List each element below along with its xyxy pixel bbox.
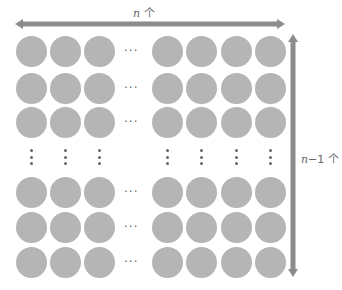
row-count-suffix: −1 个 xyxy=(308,153,339,166)
vertical-ellipsis xyxy=(235,149,238,169)
circle xyxy=(50,73,81,104)
vertical-ellipsis xyxy=(98,149,101,169)
circle xyxy=(152,212,183,243)
column-count-label: n 个 xyxy=(133,4,155,20)
circle xyxy=(255,177,286,208)
circle xyxy=(16,73,47,104)
circle xyxy=(16,107,47,138)
circle xyxy=(221,177,252,208)
vertical-ellipsis xyxy=(269,149,272,169)
horizontal-ellipsis: ··· xyxy=(124,222,138,232)
circle xyxy=(186,36,217,67)
horizontal-ellipsis: ··· xyxy=(124,257,138,267)
circle xyxy=(16,36,47,67)
horizontal-ellipsis: ··· xyxy=(124,83,138,93)
circle xyxy=(255,73,286,104)
circle xyxy=(16,247,47,278)
circle-grid-diagram: n 个 n−1 个 ·················· xyxy=(0,0,342,290)
horizontal-ellipsis: ··· xyxy=(124,187,138,197)
vertical-ellipsis xyxy=(200,149,203,169)
circle xyxy=(50,212,81,243)
horizontal-ellipsis: ··· xyxy=(124,46,138,56)
column-count-suffix: 个 xyxy=(140,7,155,20)
circle xyxy=(186,247,217,278)
circle xyxy=(255,212,286,243)
circle xyxy=(186,177,217,208)
circle xyxy=(255,107,286,138)
circle xyxy=(152,107,183,138)
circle xyxy=(152,36,183,67)
circle xyxy=(50,36,81,67)
circle xyxy=(84,36,115,67)
circle xyxy=(84,247,115,278)
circle xyxy=(50,107,81,138)
circle xyxy=(221,107,252,138)
circle xyxy=(84,177,115,208)
circle xyxy=(84,73,115,104)
circle xyxy=(221,73,252,104)
circle xyxy=(221,247,252,278)
circle xyxy=(16,177,47,208)
circle xyxy=(221,212,252,243)
horizontal-ellipsis: ··· xyxy=(124,117,138,127)
vertical-ellipsis xyxy=(64,149,67,169)
circle xyxy=(186,107,217,138)
circle xyxy=(50,177,81,208)
circle xyxy=(255,36,286,67)
circle xyxy=(50,247,81,278)
horizontal-double-arrow-icon xyxy=(15,19,285,29)
circle xyxy=(152,247,183,278)
circle xyxy=(152,73,183,104)
circle xyxy=(186,212,217,243)
circle xyxy=(16,212,47,243)
circle xyxy=(84,107,115,138)
circle xyxy=(221,36,252,67)
row-count-label: n−1 个 xyxy=(301,150,339,166)
circle xyxy=(84,212,115,243)
vertical-ellipsis xyxy=(166,149,169,169)
circle xyxy=(255,247,286,278)
circle xyxy=(186,73,217,104)
vertical-double-arrow-icon xyxy=(288,34,298,277)
vertical-ellipsis xyxy=(30,149,33,169)
circle xyxy=(152,177,183,208)
